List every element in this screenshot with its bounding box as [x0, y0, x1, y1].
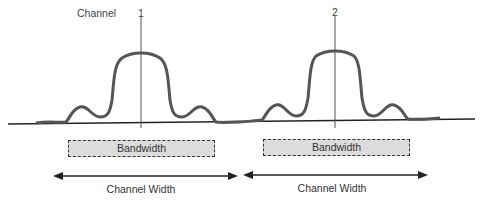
- channel-spectrum-diagram: [0, 0, 481, 200]
- channel-2-bandwidth-box: Bandwidth: [263, 139, 410, 156]
- channel-1-width-label: Channel Width: [107, 183, 176, 195]
- channel-2-signal-curve: [240, 51, 440, 122]
- channel-2-width-label: Channel Width: [298, 182, 367, 194]
- channel-2-width-arrow: [243, 171, 428, 179]
- channel-2-number: 2: [332, 6, 338, 18]
- channel-1-signal-curve: [36, 53, 240, 123]
- channel-1-bandwidth-box: Bandwidth: [68, 140, 215, 157]
- channel-1-number: 1: [138, 7, 144, 19]
- channel-label: Channel: [77, 7, 116, 19]
- channel-1-width-arrow: [53, 172, 238, 180]
